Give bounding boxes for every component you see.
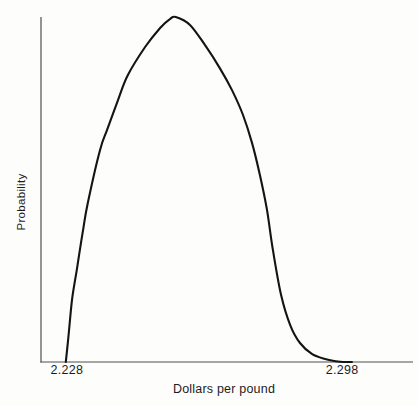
y-axis-label: Probability <box>15 174 27 231</box>
probability-distribution-figure: Probability 2.228 2.298 Dollars per poun… <box>0 0 418 406</box>
density-curve <box>66 17 352 362</box>
x-tick-label-left: 2.228 <box>51 363 84 377</box>
chart-canvas <box>0 0 418 406</box>
x-tick-label-right: 2.298 <box>326 363 359 377</box>
x-axis-label: Dollars per pound <box>173 382 275 396</box>
